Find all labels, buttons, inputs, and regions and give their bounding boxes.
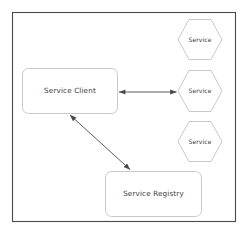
service-hexagon-2-label: Service (189, 87, 212, 94)
diagram-canvas: Service Client Service Registry Service … (0, 0, 245, 235)
service-discovery-diagram: Service Client Service Registry Service … (0, 0, 245, 235)
service-hexagon-1-label: Service (189, 36, 212, 43)
node-service-client[interactable]: Service Client (23, 69, 118, 114)
service-registry-label: Service Registry (123, 189, 184, 198)
node-service-registry[interactable]: Service Registry (106, 172, 202, 217)
service-client-label: Service Client (44, 86, 96, 95)
service-hexagon-3-label: Service (189, 138, 212, 145)
